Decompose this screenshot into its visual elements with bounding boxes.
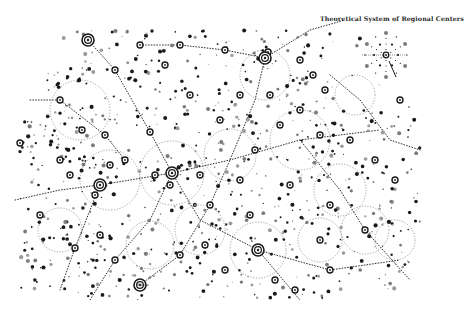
inset-hexagonal-model <box>362 31 408 79</box>
settlement-dot <box>106 68 109 71</box>
regional-center-dot <box>199 174 201 176</box>
settlement-dot <box>354 161 358 165</box>
settlement-dot <box>250 120 254 124</box>
settlement-dot <box>179 192 181 194</box>
settlement-dot <box>126 295 129 298</box>
settlement-dot <box>302 51 306 55</box>
settlement-dot <box>95 114 96 115</box>
settlement-dot <box>140 294 143 297</box>
settlement-dot <box>79 118 81 120</box>
settlement-dot <box>361 171 364 174</box>
settlement-dot <box>109 181 112 184</box>
settlement-dot <box>227 285 229 287</box>
settlement-dot <box>41 265 45 269</box>
settlement-dot <box>243 161 245 163</box>
settlement-dot <box>125 30 128 33</box>
settlement-dot <box>109 276 110 277</box>
regional-center-dot <box>279 124 281 126</box>
settlement-dot <box>33 258 37 262</box>
settlement-dot <box>46 79 48 81</box>
settlement-dot <box>186 168 188 170</box>
settlement-dot <box>386 128 387 129</box>
settlement-dot <box>324 107 325 108</box>
settlement-dot <box>75 130 79 134</box>
settlement-dot <box>327 81 329 83</box>
settlement-dot <box>296 276 297 277</box>
settlement-dot <box>63 220 67 224</box>
settlement-dot <box>274 238 278 242</box>
settlement-dot <box>136 124 138 126</box>
settlement-dot <box>53 237 55 239</box>
inset-small-dot <box>400 63 401 64</box>
settlement-dot <box>334 208 338 212</box>
settlement-dot <box>339 287 343 291</box>
regional-center-dot <box>19 142 21 144</box>
settlement-dot <box>116 167 118 169</box>
settlement-dot <box>272 63 273 64</box>
settlement-dot <box>33 134 35 136</box>
settlement-dot <box>93 167 95 169</box>
settlement-dot <box>317 179 321 183</box>
settlement-dot <box>23 249 26 252</box>
settlement-dot <box>395 263 396 264</box>
settlement-dot <box>208 239 210 241</box>
inset-small-dot <box>400 46 401 47</box>
settlement-dot <box>256 173 257 174</box>
regional-center-dot <box>319 239 321 241</box>
settlement-dot <box>88 223 89 224</box>
settlement-dot <box>66 256 70 260</box>
settlement-dot <box>69 225 73 229</box>
settlement-dot <box>219 148 223 152</box>
settlement-dot <box>101 293 105 297</box>
settlement-dot <box>362 109 365 112</box>
inset-outer-center <box>403 42 407 46</box>
settlement-dot <box>383 173 385 175</box>
settlement-dot <box>263 66 265 68</box>
settlement-dot <box>139 161 141 163</box>
settlement-dot <box>348 178 350 180</box>
settlement-dot <box>23 230 27 234</box>
settlement-dot <box>311 145 315 149</box>
settlement-dot <box>33 179 34 180</box>
settlement-dot <box>24 242 26 244</box>
settlement-dot <box>114 118 116 120</box>
settlement-dot <box>141 114 143 116</box>
settlement-dot <box>195 100 197 102</box>
settlement-dot <box>154 222 157 225</box>
settlement-dot <box>129 220 130 221</box>
settlement-dot <box>41 165 42 166</box>
settlement-dot <box>403 263 406 266</box>
settlement-dot <box>153 275 155 277</box>
settlement-dot <box>218 102 220 104</box>
settlement-dot <box>117 114 118 115</box>
settlement-dot <box>27 146 29 148</box>
settlement-dot <box>304 82 308 86</box>
route-line <box>300 140 410 280</box>
settlement-dot <box>81 206 84 209</box>
settlement-dot <box>322 47 324 49</box>
inset-outer-center <box>403 64 407 68</box>
settlement-dot <box>350 189 353 192</box>
settlement-dot <box>33 287 37 291</box>
regional-center-dot <box>69 174 71 176</box>
settlement-dot <box>125 101 127 103</box>
settlement-dot <box>93 233 94 234</box>
settlement-dot <box>63 122 66 125</box>
settlement-dot <box>417 193 418 194</box>
settlement-dot <box>18 150 21 153</box>
settlement-dot <box>137 299 138 300</box>
inset-small-dot <box>395 60 396 61</box>
regional-center-dot <box>81 129 83 131</box>
settlement-dot <box>290 203 294 207</box>
settlement-dot <box>80 232 81 233</box>
settlement-dot <box>116 123 117 124</box>
settlement-dot <box>146 107 149 110</box>
settlement-dot <box>317 214 319 216</box>
settlement-dot <box>186 177 189 180</box>
settlement-dot <box>185 270 188 273</box>
settlement-dot <box>118 278 122 282</box>
settlement-dot <box>57 71 59 73</box>
settlement-dot <box>337 142 339 144</box>
settlement-dot <box>132 274 134 276</box>
settlement-dot <box>108 295 111 298</box>
